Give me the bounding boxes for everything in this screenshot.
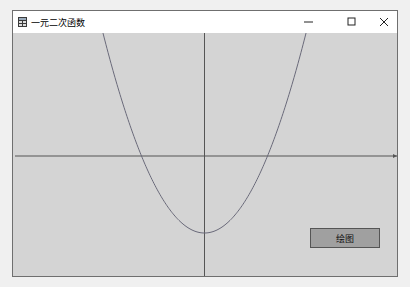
minimize-icon bbox=[304, 17, 314, 27]
window-title: 一元二次函数 bbox=[31, 16, 85, 29]
close-icon bbox=[379, 17, 389, 27]
title-bar[interactable]: 一元二次函数 bbox=[13, 11, 397, 33]
maximize-icon bbox=[347, 17, 357, 27]
maximize-button[interactable] bbox=[337, 11, 367, 33]
plot-area: 绘图 bbox=[13, 33, 397, 276]
minimize-button[interactable] bbox=[294, 11, 324, 33]
draw-button[interactable]: 绘图 bbox=[310, 228, 380, 248]
x-axis-arrow bbox=[393, 154, 397, 158]
app-window: 一元二次函数 绘图 bbox=[12, 10, 398, 277]
app-icon bbox=[18, 17, 27, 27]
close-button[interactable] bbox=[369, 11, 399, 33]
